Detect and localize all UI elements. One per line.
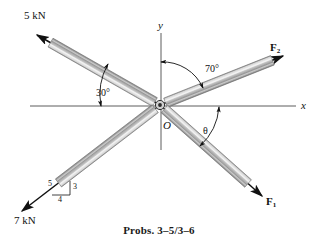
member-f1 [161,105,251,187]
force-label-f1: F1 [266,196,276,209]
figure-caption: Probs. 3–5/3–6 [0,224,318,236]
slope-label-hypotenuse: 5 [48,180,52,188]
figure-canvas [0,0,318,247]
statics-figure: 5 kN F2 F1 7 kN 30° 70° θ y x O 5 3 4 Pr… [0,0,318,247]
angle-label-theta: θ [203,126,208,136]
angle-label-30: 30° [96,88,110,98]
force-label-f1-sub: 1 [273,201,277,209]
axis-label-y: y [158,20,163,31]
axis-label-x: x [301,100,306,111]
pin-joint [155,100,164,109]
origin-label: O [163,120,171,131]
angle-arc-70 [161,62,203,88]
slope-label-vertical: 3 [73,183,77,191]
force-label-5kn: 5 kN [24,10,46,21]
force-label-f2: F2 [270,42,280,55]
force-label-f2-sub: 2 [277,47,281,55]
force-label-f2-base: F [270,41,277,53]
slope-label-horizontal: 4 [58,196,62,204]
force-label-f1-base: F [266,195,273,207]
angle-label-70: 70° [205,64,219,74]
member-7kn [55,105,158,187]
